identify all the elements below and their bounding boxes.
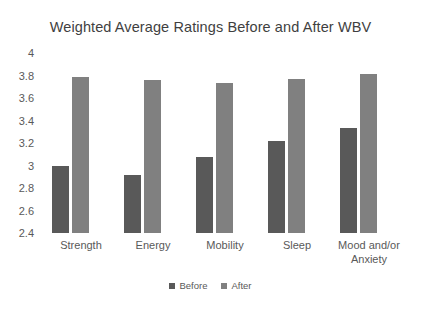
bar-before[interactable] <box>124 175 141 234</box>
bar-after[interactable] <box>72 77 89 233</box>
bar-after[interactable] <box>144 80 161 233</box>
bar-before[interactable] <box>196 157 213 234</box>
chart-title: Weighted Average Ratings Before and Afte… <box>0 19 421 35</box>
x-axis-category-label: Strength <box>45 238 117 252</box>
x-axis-category-label: Sleep <box>261 238 333 252</box>
x-axis: StrengthEnergyMobilitySleepMood and/orAn… <box>45 238 405 284</box>
x-axis-category-label: Energy <box>117 238 189 252</box>
y-axis-tick-label: 3.2 <box>19 138 34 149</box>
x-axis-category-line: Anxiety <box>333 252 405 266</box>
y-axis-tick-label: 3.6 <box>19 93 34 104</box>
plot-area <box>45 53 405 233</box>
y-axis-tick-label: 2.6 <box>19 205 34 216</box>
x-axis-category-line: Energy <box>117 238 189 252</box>
bar-group <box>189 53 261 233</box>
x-axis-category-line: Sleep <box>261 238 333 252</box>
legend-label: After <box>231 281 251 291</box>
bars-layer <box>45 53 405 233</box>
bar-group <box>333 53 405 233</box>
bar-before[interactable] <box>340 128 357 233</box>
bar-group <box>261 53 333 233</box>
x-axis-category-label: Mobility <box>189 238 261 252</box>
bar-before[interactable] <box>268 141 285 233</box>
y-axis: 43.83.63.43.232.82.62.4 <box>0 53 42 233</box>
legend-label: Before <box>179 281 207 291</box>
legend-swatch-icon <box>221 283 227 289</box>
chart-container: Weighted Average Ratings Before and Afte… <box>0 0 421 309</box>
bar-group <box>45 53 117 233</box>
bar-after[interactable] <box>216 83 233 233</box>
y-axis-tick-label: 4 <box>28 48 34 59</box>
x-axis-category-line: Strength <box>45 238 117 252</box>
legend-swatch-icon <box>169 283 175 289</box>
y-axis-tick-label: 2.4 <box>19 228 34 239</box>
legend-item[interactable]: Before <box>169 281 207 291</box>
y-axis-tick-label: 2.8 <box>19 183 34 194</box>
x-axis-category-label: Mood and/orAnxiety <box>333 238 405 266</box>
bar-after[interactable] <box>288 79 305 233</box>
y-axis-tick-label: 3.8 <box>19 70 34 81</box>
legend-item[interactable]: After <box>221 281 251 291</box>
y-axis-tick-label: 3 <box>28 160 34 171</box>
x-axis-category-line: Mood and/or <box>333 238 405 252</box>
chart-legend: BeforeAfter <box>0 281 421 291</box>
bar-after[interactable] <box>360 74 377 233</box>
bar-group <box>117 53 189 233</box>
bar-before[interactable] <box>52 166 69 234</box>
x-axis-category-line: Mobility <box>189 238 261 252</box>
y-axis-tick-label: 3.4 <box>19 115 34 126</box>
